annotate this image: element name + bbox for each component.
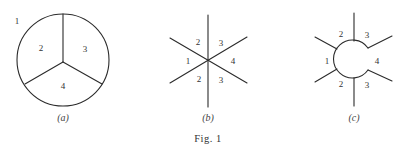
- sector-label-3-top: 3: [219, 38, 224, 48]
- panel-caption-a: (a): [57, 112, 69, 124]
- sector-label-3-bottom: 3: [365, 80, 370, 90]
- sector-label-4: 4: [231, 56, 236, 66]
- sector-label-1: 1: [186, 56, 191, 66]
- sector-label-1: 1: [325, 56, 330, 66]
- spoke-lower-left: [315, 69, 337, 82]
- region-label-2: 2: [39, 43, 44, 53]
- panel-caption-c: (c): [348, 112, 360, 124]
- spoke-lower-left: [25, 62, 63, 84]
- sector-label-4: 4: [375, 56, 380, 66]
- sector-label-2-bottom: 2: [339, 79, 344, 89]
- panel-b: 2 3 1 4 2 3 (b): [170, 15, 247, 124]
- figure-canvas: 1 2 3 4 (a) 2 3 1 4 2 3 (b) 2 3 1 4 2 3 …: [0, 0, 406, 146]
- panel-c: 2 3 1 4 2 3 (c): [315, 13, 392, 124]
- region-label-3: 3: [83, 44, 88, 54]
- panel-a: 1 2 3 4 (a): [15, 14, 109, 124]
- spoke-lower-right: [368, 70, 392, 81]
- sector-label-3-top: 3: [365, 30, 370, 40]
- sector-label-2-bottom: 2: [197, 74, 202, 84]
- sector-label-2-top: 2: [196, 37, 201, 47]
- panel-caption-b: (b): [202, 112, 214, 124]
- spoke-upper-left: [315, 37, 337, 49]
- sector-label-3-bottom: 3: [219, 75, 224, 85]
- sector-label-2-top: 2: [339, 29, 344, 39]
- open-circle: [334, 40, 368, 78]
- spoke-lower-right: [63, 62, 102, 84]
- spoke-upper-right: [368, 36, 392, 48]
- figure-caption: Fig. 1: [194, 133, 222, 144]
- region-label-4: 4: [61, 81, 66, 91]
- region-label-1: 1: [15, 16, 20, 26]
